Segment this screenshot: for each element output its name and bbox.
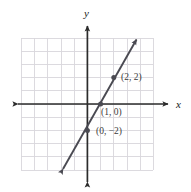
coordinate-plane-svg (0, 0, 191, 192)
point-label-0-neg2: (0, −2) (96, 127, 122, 137)
graph-figure: y x (2, 2) (1, 0) (0, −2) (0, 0, 191, 192)
point-label-1-0: (1, 0) (101, 108, 122, 118)
point-label-2-2: (2, 2) (121, 73, 142, 83)
point-marker-0-neg2 (85, 128, 90, 133)
point-marker-1-0 (98, 102, 103, 107)
x-axis-label: x (176, 99, 181, 110)
point-marker-2-2 (111, 75, 116, 80)
y-axis-label: y (84, 8, 89, 19)
